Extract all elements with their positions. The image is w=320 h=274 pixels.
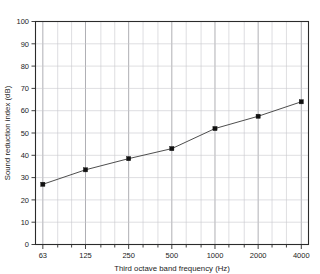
x-tick-label: 4000	[293, 251, 310, 260]
chart-container: 63125250500100020004000 0102030405060708…	[0, 0, 320, 274]
x-tick-label: 2000	[250, 251, 267, 260]
y-tick-label: 20	[21, 196, 29, 205]
x-axis-title: Third octave band frequency (Hz)	[114, 264, 230, 273]
y-tick-label: 90	[21, 40, 29, 49]
y-tick-label: 70	[21, 84, 29, 93]
y-tick-label: 80	[21, 62, 29, 71]
y-tick-label: 10	[21, 218, 29, 227]
y-tick-label: 0	[25, 240, 29, 249]
y-tick-label: 100	[16, 17, 29, 26]
y-tick-label: 50	[21, 129, 29, 138]
x-tick-label: 500	[166, 251, 179, 260]
y-tick-label: 30	[21, 173, 29, 182]
y-axis-title: Sound reduction index (dB)	[3, 85, 12, 180]
y-tick-label: 40	[21, 151, 29, 160]
x-tick-label: 125	[79, 251, 92, 260]
x-tick-label: 250	[122, 251, 135, 260]
x-tick-label: 63	[39, 251, 47, 260]
x-tick-label: 1000	[207, 251, 224, 260]
sound-reduction-index-chart: 63125250500100020004000 0102030405060708…	[0, 0, 320, 274]
y-tick-label: 60	[21, 106, 29, 115]
